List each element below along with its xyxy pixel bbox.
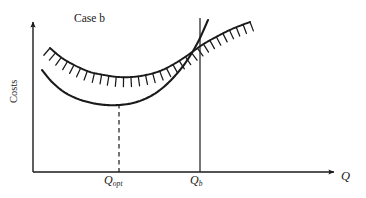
hatch-tick — [115, 77, 116, 86]
y-axis-label: Costs — [9, 68, 20, 114]
hatch-tick — [44, 48, 50, 55]
hatch-tick — [70, 65, 74, 73]
q-b-subscript: b — [199, 179, 203, 188]
hatch-tick — [236, 27, 240, 36]
hatched-constraint-curve — [44, 22, 254, 87]
hatch-tick — [77, 68, 81, 77]
hatch-tick — [146, 75, 148, 84]
hatch-tick — [243, 25, 246, 34]
q-b-label: Qb — [190, 174, 203, 188]
hatch-tick — [138, 76, 139, 85]
hatch-tick — [229, 30, 233, 39]
q-b-base: Q — [190, 173, 199, 187]
hatch-tick — [250, 22, 253, 31]
q-opt-base: Q — [104, 173, 113, 187]
hatch-tick — [216, 37, 220, 45]
hatch-tick — [203, 44, 208, 52]
hatch-tick — [131, 77, 132, 86]
hatch-tick — [173, 65, 178, 73]
q-opt-subscript: opt — [113, 179, 123, 188]
figure-canvas — [0, 0, 366, 198]
hatch-tick — [166, 68, 170, 76]
hatch-tick — [210, 40, 215, 48]
hatch-tick — [160, 71, 163, 80]
hatch-tick — [100, 75, 102, 84]
hatch-tick — [63, 61, 68, 69]
hatch-tick — [153, 73, 155, 82]
hatch-tick — [223, 33, 227, 41]
figure-case-b: Case b Costs Q Qopt Qb — [0, 0, 366, 198]
x-axis-label: Q — [341, 170, 350, 183]
hatch-tick — [49, 53, 55, 60]
hatch-tick — [107, 76, 109, 85]
hatch-tick — [56, 57, 62, 65]
hatch-tick — [84, 71, 87, 80]
hatch-tick — [92, 73, 94, 82]
case-label: Case b — [74, 13, 105, 25]
q-opt-label: Qopt — [104, 174, 123, 188]
